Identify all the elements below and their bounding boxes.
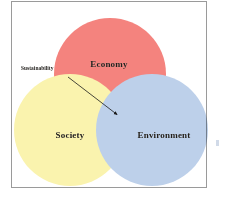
figure-frame: Economy Society Environment Sustainabili… xyxy=(11,1,207,188)
page-edge-mark xyxy=(216,140,219,146)
venn-label-society: Society xyxy=(34,130,106,140)
annotation-label-sustainability: Sustainability xyxy=(21,65,53,71)
venn-diagram xyxy=(12,2,208,189)
venn-label-environment: Environment xyxy=(125,130,203,140)
figure-page: Economy Society Environment Sustainabili… xyxy=(0,0,225,200)
